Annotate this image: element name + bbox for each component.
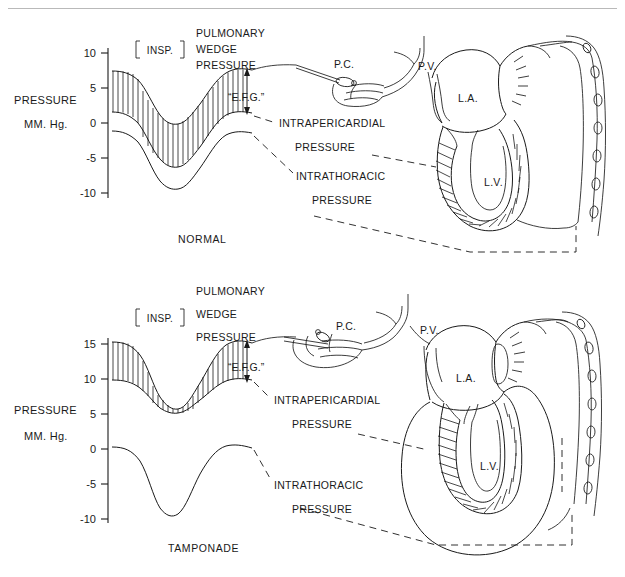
normal-intrapericardial-curve xyxy=(112,112,252,168)
tamponade-label-pv: P.V. xyxy=(420,324,439,336)
normal-label-la: L.A. xyxy=(458,92,478,104)
tamponade-efg-label: “E.F.G.” xyxy=(228,361,265,373)
normal-hatch-right xyxy=(183,70,243,165)
tamponade-tick-10: 10 xyxy=(84,373,96,385)
tamponade-intraperi-anno-line1: INTRAPERICARDIAL xyxy=(274,394,380,406)
top-divider-rule xyxy=(8,8,617,9)
normal-tick-neg5: -5 xyxy=(86,152,96,164)
tamponade-label-la: L.A. xyxy=(456,372,476,384)
tamponade-label-pc: P.C. xyxy=(336,320,356,332)
tamponade-tick-5: 5 xyxy=(90,408,96,420)
normal-intrathoracic-anno-line1: INTRATHORACIC xyxy=(296,170,386,182)
tamponade-intrathoracic-anno-line1: INTRATHORACIC xyxy=(274,479,364,491)
normal-wedge-anno-line2: WEDGE xyxy=(196,43,237,55)
tamponade-intrathoracic-curve xyxy=(112,445,252,516)
figure-canvas: 10 5 0 -5 -10 PRESSURE MM. Hg. INSP. xyxy=(0,0,625,577)
tamponade-hatch-left xyxy=(113,342,148,396)
normal-panel-caption: NORMAL xyxy=(178,233,227,245)
panel-normal: 10 5 0 -5 -10 PRESSURE MM. Hg. INSP. xyxy=(14,27,606,252)
tamponade-tick-0: 0 xyxy=(90,443,96,455)
normal-vertebrae xyxy=(582,42,603,218)
tamponade-label-lv: L.V. xyxy=(480,460,499,472)
tamponade-tick-neg5: -5 xyxy=(86,478,96,490)
tamponade-insp-label: INSP. xyxy=(147,313,173,324)
tamponade-axis-label-pressure: PRESSURE xyxy=(14,404,77,416)
tamponade-vertebrae xyxy=(576,318,597,494)
normal-label-pc: P.C. xyxy=(334,58,354,70)
normal-tick-0: 0 xyxy=(90,117,96,129)
tamponade-wedge-anno-line2: WEDGE xyxy=(196,308,237,320)
tamponade-tick-15: 15 xyxy=(84,338,96,350)
normal-wedge-anno-line3: PRESSURE xyxy=(196,59,256,71)
normal-axis-label-units: MM. Hg. xyxy=(24,118,68,130)
tamponade-intrapericardial-pointer xyxy=(358,434,428,450)
tamponade-hatch-right xyxy=(193,342,243,410)
tamponade-intrathoracic-anno-line2: PRESSURE xyxy=(292,503,352,515)
normal-intraperi-anno-line1: INTRAPERICARDIAL xyxy=(279,117,385,129)
normal-label-lv: L.V. xyxy=(484,176,503,188)
normal-intrathoracic-leader xyxy=(254,136,293,173)
normal-intrathoracic-anno-line2: PRESSURE xyxy=(312,194,372,206)
tamponade-axis xyxy=(101,338,108,523)
tamponade-hatch-trough xyxy=(153,386,188,413)
normal-tick-neg10: -10 xyxy=(80,187,96,199)
normal-axis xyxy=(101,48,108,198)
tamponade-intraperi-anno-line2: PRESSURE xyxy=(292,418,352,430)
tamponade-wedge-anno-line3: PRESSURE xyxy=(196,331,256,343)
tamponade-axis-label-units: MM. Hg. xyxy=(24,430,68,442)
normal-tick-5: 5 xyxy=(90,82,96,94)
normal-insp-label: INSP. xyxy=(147,45,173,56)
tamponade-panel-caption: TAMPONADE xyxy=(168,542,239,554)
normal-wedge-anno-line1: PULMONARY xyxy=(196,27,265,39)
pericardial-pressure-figure: 10 5 0 -5 -10 PRESSURE MM. Hg. INSP. xyxy=(0,0,625,577)
normal-intraperi-leader xyxy=(254,116,276,123)
normal-hatch-trough xyxy=(143,91,178,167)
tamponade-wedge-anno-line1: PULMONARY xyxy=(196,285,265,297)
tamponade-tick-neg10: -10 xyxy=(80,513,96,525)
normal-intrathoracic-curve xyxy=(112,131,252,189)
normal-tick-10: 10 xyxy=(84,47,96,59)
normal-intraperi-anno-line2: PRESSURE xyxy=(295,141,355,153)
normal-intrapericardial-pointer xyxy=(372,155,436,167)
tamponade-intrathoracic-leader xyxy=(254,450,271,480)
normal-hatch-left xyxy=(113,71,138,123)
panel-tamponade: 15 10 5 0 -5 -10 PRESSURE MM. Hg. INSP. xyxy=(14,285,602,555)
normal-efg-label: “E.F.G.” xyxy=(228,91,265,103)
normal-catheter-leader xyxy=(252,65,296,70)
normal-axis-label-pressure: PRESSURE xyxy=(14,94,77,106)
normal-label-pv: P.V. xyxy=(418,60,437,72)
tamponade-intraperi-leader xyxy=(254,382,271,399)
normal-intrathoracic-boundary xyxy=(314,216,576,252)
tamponade-pericardial-sac xyxy=(401,386,554,555)
tamponade-lv-hatching xyxy=(438,403,516,513)
